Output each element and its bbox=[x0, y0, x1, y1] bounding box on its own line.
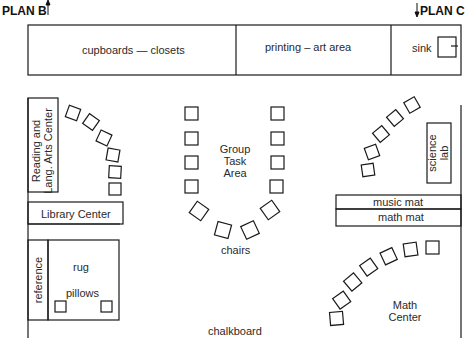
chair-icon bbox=[387, 110, 404, 127]
chair-icon bbox=[333, 291, 351, 309]
printing-art-label: printing – art area bbox=[265, 42, 351, 53]
chair-icon bbox=[241, 221, 260, 240]
chair-icon bbox=[109, 183, 121, 195]
chair-icon bbox=[270, 180, 283, 193]
chair-icon bbox=[380, 248, 397, 265]
group-line3: Area bbox=[210, 167, 260, 179]
chair-icon bbox=[83, 114, 100, 131]
chair-icon bbox=[96, 130, 112, 146]
chair-icon bbox=[344, 273, 362, 291]
group-line2: Task bbox=[210, 155, 260, 167]
reading-line2: Lang. Arts Center bbox=[42, 105, 54, 197]
reference-label: reference bbox=[32, 244, 44, 316]
chairs-label: chairs bbox=[221, 245, 250, 256]
music-mat-label: music mat bbox=[373, 197, 423, 208]
chair-icon bbox=[329, 311, 343, 325]
chair-icon bbox=[185, 180, 198, 193]
cupboards-label: cupboards — closets bbox=[82, 45, 185, 56]
plan-b-label: PLAN B bbox=[2, 5, 47, 17]
rug-label: rug bbox=[73, 262, 89, 273]
chair-icon bbox=[271, 156, 284, 169]
chair-icon bbox=[360, 258, 378, 276]
chalkboard-label: chalkboard bbox=[208, 326, 262, 337]
reading-line1: Reading and bbox=[30, 105, 42, 197]
chair-icon bbox=[426, 241, 439, 254]
sink-label: sink bbox=[412, 43, 432, 54]
pillows-label: pillows bbox=[66, 288, 99, 299]
science-line1: science bbox=[426, 123, 438, 183]
pillow-icon bbox=[55, 301, 66, 312]
chair-icon bbox=[214, 221, 231, 238]
math-center-label: Math Center bbox=[380, 299, 430, 323]
chair-icon bbox=[271, 107, 284, 120]
group-line1: Group bbox=[210, 143, 260, 155]
chair-icon bbox=[404, 97, 420, 113]
chair-icon bbox=[189, 201, 208, 220]
chair-icon bbox=[106, 148, 120, 162]
chair-icon bbox=[403, 242, 418, 257]
reading-center-label: Reading and Lang. Arts Center bbox=[30, 105, 56, 197]
sink-icon bbox=[438, 37, 456, 57]
chair-icon bbox=[109, 166, 122, 179]
science-lab-label: science lab bbox=[426, 123, 452, 183]
chair-icon bbox=[364, 144, 379, 159]
chair-icon bbox=[260, 200, 279, 219]
chair-icon bbox=[185, 107, 198, 120]
group-task-area-label: Group Task Area bbox=[210, 143, 260, 179]
chair-icon bbox=[361, 163, 375, 177]
chair-icon bbox=[65, 105, 80, 120]
rug bbox=[48, 240, 119, 320]
plan-c-label: PLAN C bbox=[420, 5, 465, 17]
chair-icon bbox=[185, 132, 198, 145]
science-line2: lab bbox=[438, 123, 450, 183]
math-line1: Math bbox=[380, 299, 430, 311]
library-center-label: Library Center bbox=[41, 209, 111, 220]
math-line2: Center bbox=[380, 311, 430, 323]
pillow-icon bbox=[101, 301, 112, 312]
chair-icon bbox=[271, 132, 284, 145]
chair-icon bbox=[373, 126, 390, 143]
chair-icon bbox=[185, 156, 198, 169]
math-mat-label: math mat bbox=[378, 212, 424, 223]
